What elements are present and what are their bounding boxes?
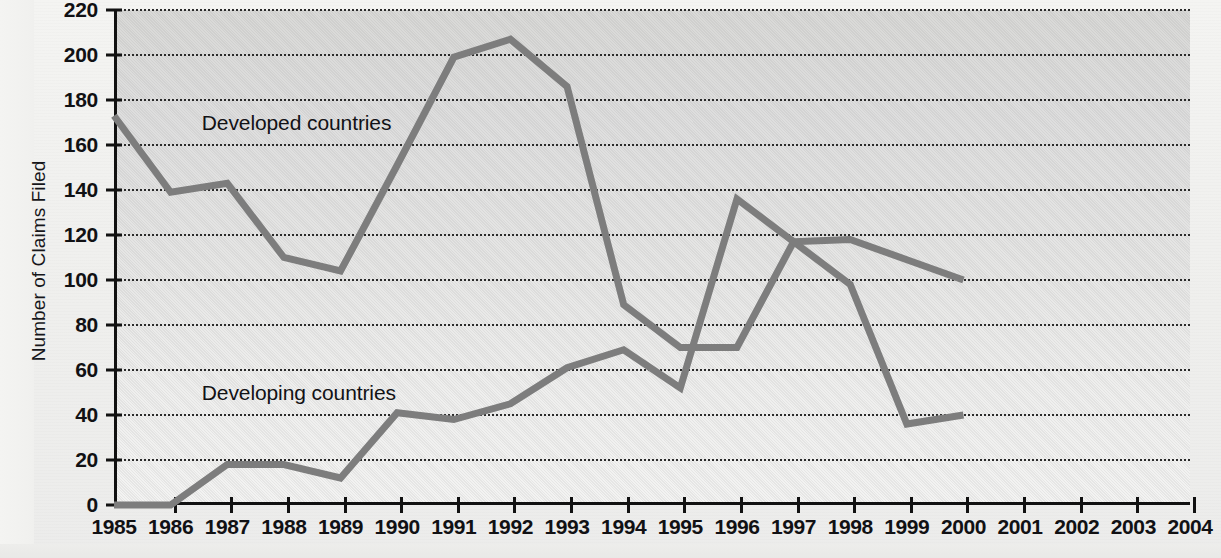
x-tick-label: 2000 (941, 515, 986, 539)
x-tick-label: 1992 (488, 515, 533, 539)
x-tick-label: 1998 (828, 515, 873, 539)
x-tick-label: 2002 (1054, 515, 1099, 539)
x-tick-label: 1995 (658, 515, 703, 539)
x-tick-label: 1990 (375, 515, 420, 539)
x-tick-label: 1987 (205, 515, 250, 539)
series-annotation-label: Developing countries (202, 381, 396, 405)
x-tick-label: 2004 (1167, 515, 1212, 539)
x-tick-label: 1994 (601, 515, 646, 539)
line-chart-figure: Number of Claims Filed 02040608010012014… (0, 0, 1221, 558)
x-tick-label: 1986 (148, 515, 193, 539)
x-tick-label: 1999 (884, 515, 929, 539)
x-tick-label: 1997 (771, 515, 816, 539)
x-tick-label: 1996 (714, 515, 759, 539)
x-tick-label: 1988 (261, 515, 306, 539)
x-tick-label: 2001 (998, 515, 1043, 539)
bottom-margin (0, 544, 1221, 558)
x-tick-label: 1985 (91, 515, 136, 539)
series-annotation-label: Developed countries (202, 111, 392, 135)
x-tick-label: 1991 (431, 515, 476, 539)
x-tick-label: 1993 (544, 515, 589, 539)
x-axis-tick-labels: 1985198619871988198919901991199219931994… (0, 0, 1221, 558)
x-tick-label: 2003 (1111, 515, 1156, 539)
x-tick-label: 1989 (318, 515, 363, 539)
